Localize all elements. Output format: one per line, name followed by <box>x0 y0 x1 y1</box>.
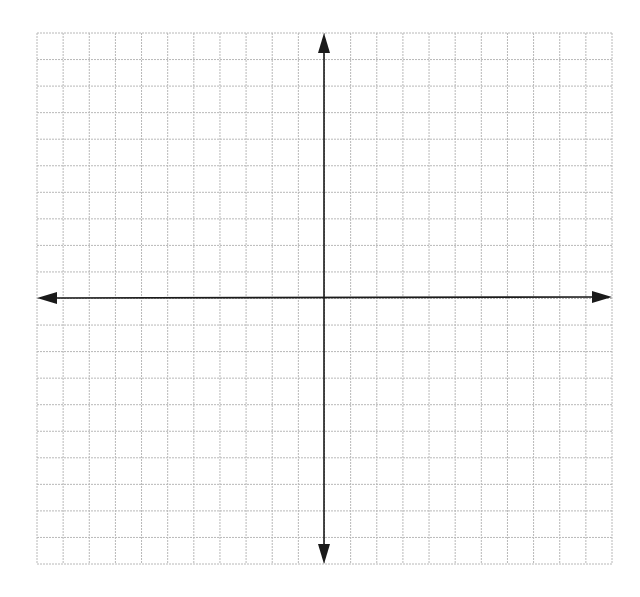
arrow-left-icon <box>37 292 57 304</box>
arrow-right-icon <box>592 291 612 303</box>
axes <box>37 33 612 564</box>
arrow-down-icon <box>318 544 330 564</box>
arrow-up-icon <box>318 33 330 53</box>
coordinate-plane <box>0 0 640 597</box>
